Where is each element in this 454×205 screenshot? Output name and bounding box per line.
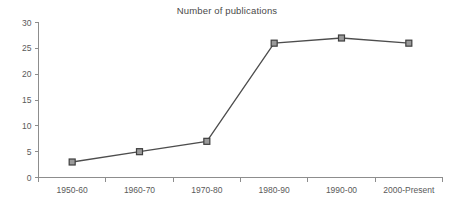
series-line: [72, 38, 409, 162]
data-point-marker: [69, 159, 75, 165]
markers-group: [69, 35, 412, 165]
data-point-marker: [137, 149, 143, 155]
x-axis-tick-label: 1970-80: [191, 185, 222, 195]
x-axis-tick-label: 1990-00: [326, 185, 357, 195]
series-group: [72, 38, 409, 162]
x-axis-tick-label: 1960-70: [124, 185, 155, 195]
x-axis-tick-label: 2000-Present: [383, 185, 435, 195]
data-point-marker: [204, 138, 210, 144]
data-point-marker: [406, 40, 412, 46]
chart-container: Number of publications 302520151050 1950…: [0, 0, 454, 205]
data-point-marker: [339, 35, 345, 41]
x-axis-tick-label: 1950-60: [57, 185, 88, 195]
y-axis: 302520151050: [22, 18, 38, 183]
y-axis-tick-label: 0: [27, 173, 32, 183]
line-chart-plot: 302520151050 1950-601960-701970-801980-9…: [0, 0, 454, 205]
x-axis: 1950-601960-701970-801980-901990-002000-…: [39, 178, 443, 195]
y-axis-tick-label: 25: [22, 43, 32, 53]
y-axis-tick-label: 20: [22, 69, 32, 79]
y-axis-tick-label: 30: [22, 18, 32, 28]
data-point-marker: [271, 40, 277, 46]
y-axis-tick-label: 10: [22, 121, 32, 131]
y-axis-tick-label: 15: [22, 95, 32, 105]
x-axis-tick-label: 1980-90: [259, 185, 290, 195]
y-axis-tick-label: 5: [27, 147, 32, 157]
